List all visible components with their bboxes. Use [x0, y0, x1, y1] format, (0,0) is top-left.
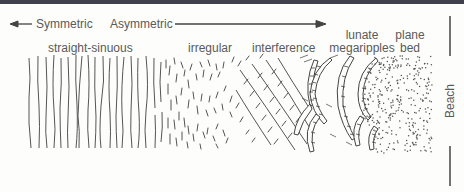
- zone-label-straight-sinuous: straight-sinuous: [48, 42, 133, 55]
- straight-sinuous-ripples: [29, 55, 163, 148]
- beach-label: Beach: [443, 83, 457, 119]
- interference-cross-ticks: [232, 54, 300, 144]
- asymmetric-label: Asymmetric: [110, 18, 173, 31]
- irregular-ripples: [166, 58, 232, 149]
- asymmetric-arrow-icon: [175, 21, 326, 28]
- symmetric-arrow-icon: [10, 21, 32, 27]
- zone-label-irregular: irregular: [188, 42, 232, 55]
- zone-label-plane-bed: plane bed: [392, 29, 428, 55]
- symmetric-label: Symmetric: [36, 18, 93, 31]
- plane-line2: bed: [392, 42, 428, 55]
- zone-label-interference: interference: [252, 42, 315, 55]
